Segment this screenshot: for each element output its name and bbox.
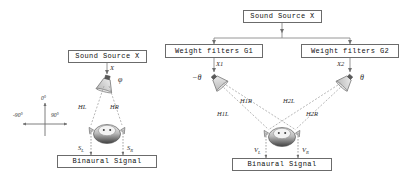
left-output-SL-sub: L [81, 148, 84, 153]
left-output-label-SR: SR [127, 145, 133, 154]
weight-filters-g2-box[interactable]: Weight filters G2 [301, 44, 399, 58]
right-path-H2L [268, 83, 341, 130]
axis-label-right-90deg: 90° [51, 113, 59, 119]
right-output-VR-sub: R [306, 150, 309, 155]
left-reference-axis [23, 103, 67, 136]
left-angle-label-phi: φ [118, 76, 122, 84]
right-output-VL-sub: L [258, 150, 261, 155]
left-binaural-signal-box[interactable]: Binaural Signal [57, 155, 157, 168]
right-path-label-H2R: H2R [306, 111, 318, 118]
left-listener-head-icon [89, 125, 125, 144]
left-output-SR-sub: R [130, 148, 133, 153]
left-path-label-HL: HL [78, 104, 86, 111]
right-binaural-signal-box[interactable]: Binaural Signal [232, 158, 332, 171]
right-listener-head-icon [264, 128, 300, 147]
right-path-H1R [223, 83, 296, 130]
right-signal-label-X2: X2 [337, 61, 344, 68]
left-output-label-SL: SL [78, 145, 84, 154]
right-output-label-VR: VR [302, 147, 309, 156]
axis-label-left-minus90deg: -90° [13, 113, 23, 119]
right-angle-label-theta: θ [360, 74, 364, 82]
right-speaker1-icon [207, 71, 228, 92]
right-path-label-H1R: H1R [240, 98, 252, 105]
right-path-label-H2L: H2L [283, 98, 295, 105]
left-path-HL [91, 86, 104, 125]
right-sound-source-box[interactable]: Sound Source X [243, 10, 322, 23]
right-signal-label-X1: X1 [216, 61, 223, 68]
left-signal-label-X: X [110, 65, 114, 72]
left-sound-source-box[interactable]: Sound Source X [68, 50, 147, 63]
right-output-label-VL: VL [254, 147, 261, 156]
axis-label-front-0deg: 0° [41, 96, 46, 102]
left-path-label-HR: HR [110, 104, 119, 111]
right-path-label-H1L: H1L [217, 111, 229, 118]
right-angle-label-minus-theta: −θ [192, 74, 201, 82]
left-speaker-icon [96, 74, 116, 94]
weight-filters-g1-box[interactable]: Weight filters G1 [165, 44, 263, 58]
right-speaker2-icon [335, 71, 356, 92]
